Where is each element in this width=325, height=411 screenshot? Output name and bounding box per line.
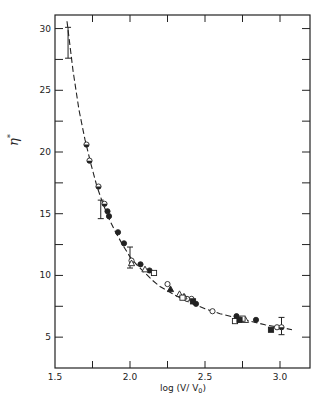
- filled-square-point: [268, 327, 273, 332]
- x-axis-title-close: ): [202, 383, 206, 393]
- y-axis-title-main: η: [6, 138, 21, 146]
- y-tick-label: 25: [40, 85, 51, 95]
- filled-circle-point: [253, 317, 258, 322]
- y-ticks: 51015202530: [40, 24, 310, 343]
- data-points: [84, 142, 284, 332]
- y-tick-label: 5: [45, 332, 51, 342]
- open-square-point: [151, 270, 156, 275]
- plot-frame: [55, 15, 310, 368]
- axes: [55, 15, 310, 368]
- y-tick-label: 30: [40, 24, 52, 34]
- open-square-point: [180, 295, 185, 300]
- error-bars: [65, 27, 284, 334]
- y-axis-title: η*: [6, 134, 21, 146]
- x-axis-title: log (V/ V0): [160, 383, 206, 395]
- filled-square-point: [237, 317, 242, 322]
- y-axis-title-sup: *: [6, 134, 15, 138]
- y-tick-label: 20: [40, 147, 52, 157]
- svg-text:η*: η*: [6, 134, 21, 146]
- filled-circle-point: [115, 230, 120, 235]
- y-tick-label: 15: [40, 209, 51, 219]
- fit-curve: [67, 21, 292, 330]
- filled-circle-point: [121, 241, 126, 246]
- x-tick-label: 3.0: [273, 372, 288, 382]
- y-tick-label: 10: [40, 270, 52, 280]
- filled-square-point: [190, 299, 195, 304]
- chart: 1.52.02.53.0 51015202530 log (V/ V0) η*: [0, 0, 325, 411]
- x-axis-title-main: log (V/ V: [160, 383, 199, 393]
- filled-circle-point: [105, 209, 110, 214]
- open-circle-point: [165, 281, 170, 286]
- filled-circle-point: [106, 214, 111, 219]
- x-tick-label: 2.0: [123, 372, 138, 382]
- x-ticks: 1.52.02.53.0: [48, 15, 288, 382]
- x-tick-label: 2.5: [198, 372, 212, 382]
- filled-circle-point: [138, 262, 143, 267]
- open-circle-point: [210, 309, 215, 314]
- x-tick-label: 1.5: [48, 372, 62, 382]
- fit-curve-group: [67, 21, 292, 330]
